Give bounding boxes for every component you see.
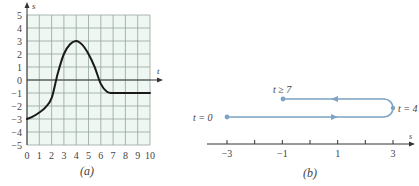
chart-a-s-axis-label: s: [32, 1, 36, 11]
chart-b-ticks: [227, 140, 393, 144]
chart-a-x-tick-labels: 012345678910: [25, 150, 156, 161]
y-tick-label: −5: [11, 140, 22, 151]
chart-b-right-arrow-icon: [331, 114, 338, 120]
y-tick-label: −3: [11, 114, 22, 125]
chart-b-s-axis-label: s: [409, 132, 412, 141]
x-tick-label: 0: [25, 150, 30, 161]
y-tick-label: 1: [17, 62, 22, 73]
y-tick-label: 2: [17, 49, 22, 60]
axis-tick-label: −1: [277, 148, 288, 159]
y-tick-label: 3: [17, 36, 22, 47]
axis-tick-label: −3: [222, 148, 233, 159]
chart-b-t4-label: t = 4: [398, 103, 418, 114]
y-tick-label: 5: [17, 10, 22, 21]
chart-b-turnaround-point: [391, 106, 395, 110]
x-tick-label: 6: [98, 150, 103, 161]
chart-a-caption: (a): [80, 164, 94, 179]
chart-b-t7-label: t ≥ 7: [273, 84, 292, 95]
chart-b-t0-label: t = 0: [193, 112, 213, 123]
chart-b-s-axis-arrow-icon: [409, 142, 415, 147]
chart-a-panel: 543210−1−2−3−4−5 012345678910 s t (a): [0, 0, 180, 186]
x-tick-label: 1: [37, 150, 42, 161]
x-tick-label: 5: [86, 150, 91, 161]
x-tick-label: 7: [111, 150, 116, 161]
chart-b-svg: s −3−113 t = 0 t = 4 t ≥ 7: [180, 0, 419, 186]
chart-b-caption: (b): [303, 166, 317, 181]
chart-b-motion-path: [227, 99, 393, 117]
axis-tick-label: 3: [391, 148, 396, 159]
x-tick-label: 4: [74, 150, 79, 161]
x-tick-label: 2: [49, 150, 54, 161]
chart-a-svg: 543210−1−2−3−4−5 012345678910 s t: [0, 0, 180, 186]
y-tick-label: 4: [17, 23, 22, 34]
chart-b-panel: s −3−113 t = 0 t = 4 t ≥ 7 (b): [180, 0, 419, 186]
chart-a-s-axis-arrow-icon: [25, 2, 30, 8]
x-tick-label: 3: [61, 150, 66, 161]
chart-b-left-arrow-icon: [331, 96, 338, 102]
y-tick-label: −4: [11, 127, 22, 138]
axis-tick-label: 1: [335, 148, 340, 159]
chart-a-y-tick-labels: 543210−1−2−3−4−5: [11, 10, 22, 151]
x-tick-label: 9: [135, 150, 140, 161]
chart-a-t-axis-arrow-icon: [157, 78, 163, 83]
chart-b-tick-labels: −3−113: [222, 148, 396, 159]
y-tick-label: −2: [11, 101, 22, 112]
chart-b-end-point: [281, 97, 286, 102]
chart-a-t-axis-label: t: [157, 66, 160, 76]
x-tick-label: 10: [145, 150, 155, 161]
chart-b-start-point: [225, 115, 230, 120]
y-tick-label: −1: [11, 88, 22, 99]
y-tick-label: 0: [17, 75, 22, 86]
x-tick-label: 8: [123, 150, 128, 161]
